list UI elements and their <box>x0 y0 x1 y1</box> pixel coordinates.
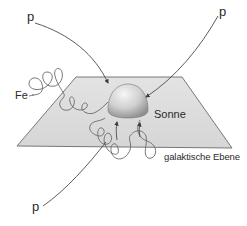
label-sun: Sonne <box>154 109 186 120</box>
label-proton-bottom-left: p <box>32 200 39 213</box>
label-iron: Fe <box>15 90 28 101</box>
label-proton-top-left: p <box>27 10 34 23</box>
proton-path-bottom-left <box>43 142 106 206</box>
label-galactic-plane: galaktische Ebene <box>164 152 240 162</box>
proton-path-top-left <box>35 23 108 83</box>
cosmic-ray-diagram: p p p Fe Sonne galaktische Ebene <box>0 0 247 226</box>
label-proton-top-right: p <box>219 5 226 18</box>
